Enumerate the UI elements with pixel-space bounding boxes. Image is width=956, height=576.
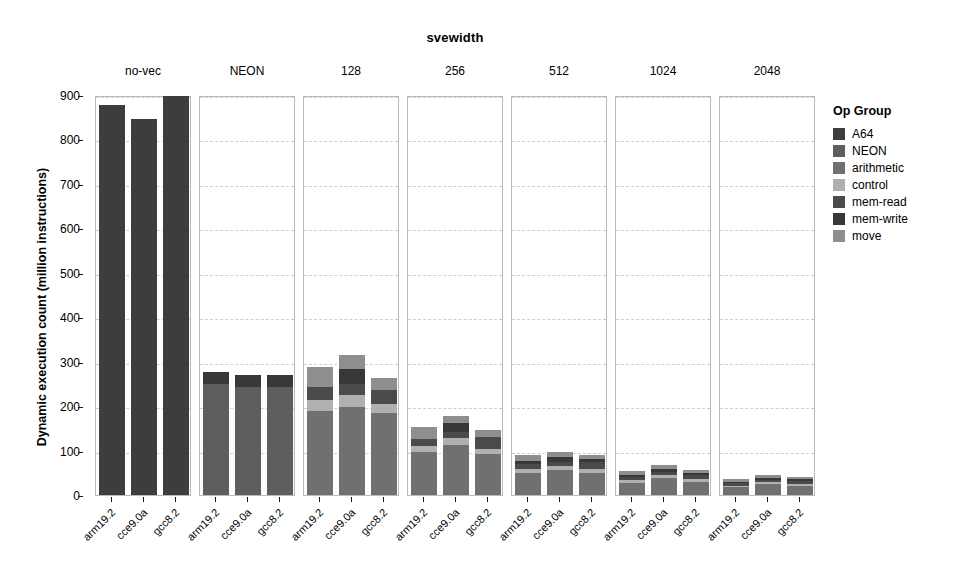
bar-segment-control — [371, 404, 397, 413]
x-axis-tick-label: cce9.0a — [530, 506, 566, 542]
gridline — [616, 141, 710, 142]
legend-item-label: mem-read — [852, 195, 907, 209]
stacked-bar[interactable] — [787, 477, 813, 495]
legend-item-mem-write[interactable]: mem-write — [833, 210, 953, 227]
x-axis-tick-mark — [695, 497, 696, 502]
gridline — [512, 141, 606, 142]
gridline — [408, 364, 502, 365]
bar-segment-arithmetic — [307, 411, 333, 495]
bar-segment-arithmetic — [787, 486, 813, 495]
x-axis-tick-label: gcc8.2 — [774, 506, 805, 537]
gridline — [720, 408, 814, 409]
stacked-bar[interactable] — [267, 375, 293, 495]
x-axis-tick-label: arm19.2 — [496, 506, 533, 543]
legend-items: A64NEONarithmeticcontrolmem-readmem-writ… — [833, 125, 953, 244]
y-axis-tick-mark — [78, 140, 83, 141]
legend-item-label: arithmetic — [852, 161, 904, 175]
stacked-bar[interactable] — [579, 455, 605, 495]
legend-item-move[interactable]: move — [833, 227, 953, 244]
gridline — [304, 97, 398, 98]
chart-figure: svewidth Dynamic execution count (millio… — [0, 0, 956, 576]
stacked-bar[interactable] — [339, 355, 365, 495]
legend-item-mem-read[interactable]: mem-read — [833, 193, 953, 210]
stacked-bar[interactable] — [307, 367, 333, 495]
gridline — [720, 97, 814, 98]
bar-segment-mem-write — [443, 423, 469, 431]
bar-segment-a64 — [99, 105, 125, 495]
bar-segment-move — [411, 427, 437, 438]
bar-segment-neon — [235, 387, 261, 495]
stacked-bar[interactable] — [235, 375, 261, 495]
x-axis-tick-mark — [767, 497, 768, 502]
stacked-bar[interactable] — [203, 372, 229, 495]
stacked-bar[interactable] — [683, 470, 709, 495]
y-axis-tick-label: 900 — [40, 89, 80, 103]
x-axis-tick-mark — [663, 497, 664, 502]
x-axis-tick-mark — [143, 497, 144, 502]
x-axis-tick-label: arm19.2 — [80, 506, 117, 543]
y-axis-tick-label: 500 — [40, 267, 80, 281]
stacked-bar[interactable] — [99, 105, 125, 495]
stacked-bar[interactable] — [131, 119, 157, 495]
y-axis-tick-mark — [78, 318, 83, 319]
stacked-bar[interactable] — [411, 427, 437, 495]
bar-segment-arithmetic — [475, 454, 501, 495]
gridline — [512, 408, 606, 409]
stacked-bar[interactable] — [163, 96, 189, 495]
x-axis-tick-label: cce9.0a — [426, 506, 462, 542]
x-axis-tick-label: gcc8.2 — [462, 506, 493, 537]
bar-segment-a64 — [163, 96, 189, 495]
x-axis-tick-mark — [799, 497, 800, 502]
y-axis-tick-mark — [78, 274, 83, 275]
x-axis-tick-mark — [319, 497, 320, 502]
stacked-bar[interactable] — [515, 455, 541, 495]
facet-label-128: 128 — [303, 60, 399, 82]
bar-segment-arithmetic — [755, 484, 781, 495]
stacked-bar[interactable] — [651, 465, 677, 495]
bar-segment-control — [443, 438, 469, 445]
stacked-bar[interactable] — [443, 416, 469, 495]
panel-2048 — [719, 96, 815, 496]
x-axis-tick-label: cce9.0a — [218, 506, 254, 542]
x-axis-tick-mark — [423, 497, 424, 502]
stacked-bar[interactable] — [475, 430, 501, 495]
facet-label-1024: 1024 — [615, 60, 711, 82]
gridline — [200, 230, 294, 231]
gridline — [304, 141, 398, 142]
x-axis-tick-mark — [455, 497, 456, 502]
x-axis-tick-label: gcc8.2 — [566, 506, 597, 537]
stacked-bar[interactable] — [723, 479, 749, 495]
x-axis-tick-label: arm19.2 — [600, 506, 637, 543]
gridline — [616, 97, 710, 98]
legend-item-label: A64 — [852, 127, 873, 141]
x-axis-tick-label: gcc8.2 — [254, 506, 285, 537]
y-axis-tick-mark — [78, 185, 83, 186]
gridline — [200, 319, 294, 320]
bar-segment-neon — [203, 384, 229, 495]
stacked-bar[interactable] — [371, 378, 397, 495]
bar-segment-move — [307, 367, 333, 387]
legend-item-control[interactable]: control — [833, 176, 953, 193]
legend-item-a64[interactable]: A64 — [833, 125, 953, 142]
bar-segment-arithmetic — [371, 413, 397, 495]
legend-item-arithmetic[interactable]: arithmetic — [833, 159, 953, 176]
x-axis-tick-label: gcc8.2 — [670, 506, 701, 537]
gridline — [720, 230, 814, 231]
panel-neon — [199, 96, 295, 496]
x-axis-tick-mark — [559, 497, 560, 502]
y-axis-tick-label: 800 — [40, 133, 80, 147]
panel-256 — [407, 96, 503, 496]
stacked-bar[interactable] — [619, 471, 645, 495]
x-axis-tick-label: cce9.0a — [738, 506, 774, 542]
legend-item-neon[interactable]: NEON — [833, 142, 953, 159]
legend-swatch-icon — [833, 230, 845, 242]
stacked-bar[interactable] — [755, 475, 781, 495]
chart-title: svewidth — [95, 30, 815, 45]
bar-segment-mem-read — [339, 384, 365, 395]
legend-swatch-icon — [833, 213, 845, 225]
stacked-bar[interactable] — [547, 452, 573, 495]
bar-segment-arithmetic — [339, 407, 365, 495]
bar-segment-mem-write — [267, 375, 293, 387]
gridline — [616, 186, 710, 187]
facet-label-512: 512 — [511, 60, 607, 82]
